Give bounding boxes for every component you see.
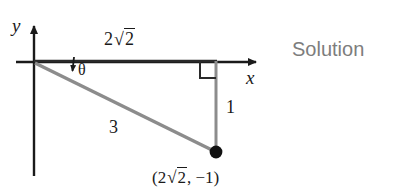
point-coordinates-prefix: (2 xyxy=(152,168,166,187)
hypotenuse-length-label: 3 xyxy=(109,118,118,136)
angle-theta-label: θ xyxy=(78,62,86,78)
solution-heading: Solution xyxy=(292,39,364,59)
y-axis-label: y xyxy=(12,16,20,35)
opposite-side-length-label: 1 xyxy=(226,98,235,116)
point-coordinates-label: (2√2, −1) xyxy=(152,169,219,186)
adjacent-side-coefficient: 2 xyxy=(104,29,113,49)
x-axis-label: x xyxy=(246,68,254,87)
point-coordinates-radicand: 2 xyxy=(177,167,188,187)
adjacent-side-label: 2√2 xyxy=(104,30,135,48)
terminal-point-dot xyxy=(210,146,223,159)
right-angle-marker xyxy=(200,62,216,78)
adjacent-side-radicand: 2 xyxy=(124,28,135,49)
angle-pointer-arrow xyxy=(73,57,75,71)
sqrt-symbol-point: √2 xyxy=(166,169,187,186)
trigonometry-figure: y x 2√2 θ 3 1 (2√2, −1) Solution xyxy=(0,0,408,193)
point-coordinates-suffix: , −1) xyxy=(187,168,219,187)
figure-canvas xyxy=(0,0,408,193)
sqrt-symbol-adjacent: √2 xyxy=(113,30,135,48)
hypotenuse-segment xyxy=(35,63,216,152)
